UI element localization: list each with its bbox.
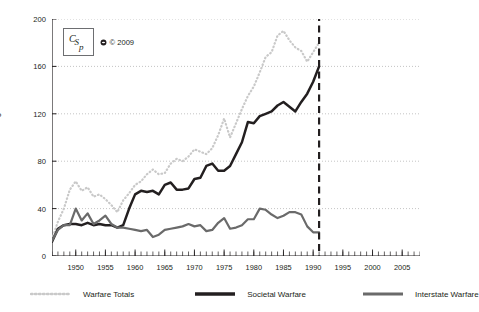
y-axis-title: Summed War Magnitude Scores	[0, 2, 1, 242]
y-tick-label-40: 40	[38, 204, 46, 213]
legend-item-societal-warfare: Societal Warfare	[194, 289, 306, 299]
copyright-notice: © 2009	[100, 38, 134, 47]
legend-label-warfare-totals: Warfare Totals	[83, 290, 134, 299]
legend-item-warfare-totals: Warfare Totals	[30, 289, 134, 299]
legend-label-societal-warfare: Societal Warfare	[247, 290, 306, 299]
x-tick-label-1995: 1995	[335, 263, 351, 272]
data-series-group	[52, 31, 319, 242]
y-tick-label-80: 80	[38, 157, 46, 166]
copyright-icon	[100, 39, 107, 46]
csp-logo-box: C S p	[63, 28, 94, 56]
y-tick-label-0: 0	[42, 252, 46, 261]
x-tick-label-1965: 1965	[157, 263, 173, 272]
legend-swatch-interstate-warfare	[362, 289, 404, 299]
x-tick-label-1975: 1975	[216, 263, 232, 272]
x-tick-label-2000: 2000	[364, 263, 380, 272]
y-tick-label-120: 120	[33, 109, 46, 118]
csp-monogram-icon: C S p	[64, 29, 93, 55]
y-tick-label-160: 160	[33, 62, 46, 71]
x-tick-label-1960: 1960	[127, 263, 143, 272]
x-tick-label-1950: 1950	[68, 263, 84, 272]
x-tick-label-1985: 1985	[275, 263, 291, 272]
x-tick-label-1970: 1970	[186, 263, 202, 272]
x-tick-label-1990: 1990	[305, 263, 321, 272]
x-tick-label-2005: 2005	[394, 263, 410, 272]
x-minor-ticks	[52, 252, 420, 257]
series-line-societal-warfare	[52, 66, 319, 241]
chart-legend: Warfare Totals Societal Warfare Intersta…	[30, 286, 410, 302]
y-axis-ticks	[52, 19, 57, 256]
x-tick-label-1955: 1955	[97, 263, 113, 272]
x-major-ticks	[76, 250, 402, 257]
x-tick-label-1980: 1980	[246, 263, 262, 272]
legend-swatch-warfare-totals	[30, 289, 72, 299]
legend-label-interstate-warfare: Interstate Warfare	[415, 290, 479, 299]
legend-swatch-societal-warfare	[194, 289, 236, 299]
legend-item-interstate-warfare: Interstate Warfare	[362, 289, 479, 299]
copyright-text: © 2009	[110, 38, 135, 47]
y-tick-label-200: 200	[33, 15, 46, 24]
svg-text:p: p	[78, 42, 84, 52]
csp-logo-badge: C S p © 2009	[63, 28, 134, 56]
series-line-warfare-totals	[52, 31, 319, 240]
